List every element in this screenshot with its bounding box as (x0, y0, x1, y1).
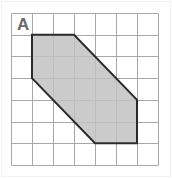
shape-label-a: A (17, 15, 29, 34)
shaded-hexagon (32, 35, 137, 144)
grid-figure-panel: A (0, 0, 172, 178)
